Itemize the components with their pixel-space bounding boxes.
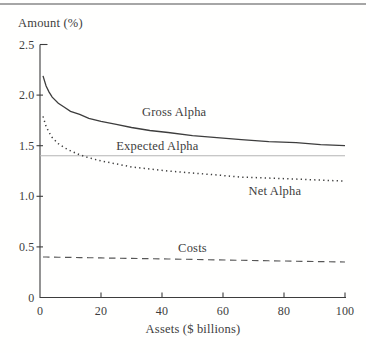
y-tick-label: 1.0 (19, 189, 35, 203)
series-label-gross-alpha: Gross Alpha (142, 105, 207, 119)
x-axis-title: Assets ($ billions) (40, 322, 346, 337)
y-axis-title: Amount (%) (18, 16, 83, 31)
y-tick-label: 2.0 (19, 88, 35, 102)
x-tick-label: 100 (336, 304, 355, 318)
series-label-costs: Costs (178, 241, 207, 255)
x-tick-label: 20 (95, 304, 107, 318)
y-tick-label: 2.5 (19, 38, 35, 52)
figure-page: Amount (%) 00.51.01.52.02.5020406080100G… (0, 0, 366, 353)
y-tick-label: 0 (28, 291, 34, 305)
y-tick-label: 1.5 (19, 139, 35, 153)
series-label-net-alpha: Net Alpha (248, 184, 301, 198)
series-label-expected-alpha: Expected Alpha (116, 139, 199, 153)
alpha-vs-assets-chart: 00.51.01.52.02.5020406080100Gross AlphaE… (0, 0, 366, 353)
top-rule (0, 3, 366, 5)
series-line-costs (43, 257, 345, 262)
x-tick-label: 60 (217, 304, 229, 318)
x-tick-label: 40 (156, 304, 168, 318)
x-tick-label: 80 (278, 304, 290, 318)
x-tick-label: 0 (37, 304, 43, 318)
axis-lines (40, 45, 346, 298)
y-tick-label: 0.5 (19, 240, 35, 254)
